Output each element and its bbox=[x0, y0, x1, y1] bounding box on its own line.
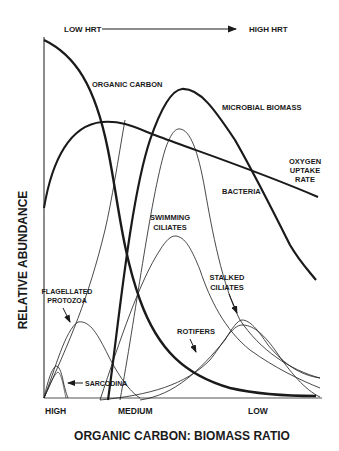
oxygen-label-1: OXYGEN bbox=[289, 157, 321, 166]
y-axis-label: RELATIVE ABUNDANCE bbox=[16, 191, 30, 330]
organic-carbon-label: ORGANIC CARBON bbox=[92, 80, 162, 89]
stalked-ciliates-label-2: CILIATES bbox=[210, 283, 244, 292]
rotifers-label: ROTIFERS bbox=[177, 327, 215, 336]
stalked-ciliates-label-1: STALKED bbox=[210, 273, 245, 282]
flagellated-protozoa-arrow bbox=[63, 308, 70, 322]
oxygen-label-3: RATE bbox=[295, 175, 315, 184]
sarcodina-label: SARCODINA bbox=[85, 380, 127, 387]
swimming-ciliates-label-2: CILIATES bbox=[153, 223, 187, 232]
low-hrt-label: LOW HRT bbox=[64, 25, 101, 34]
microbial-biomass-label: MICROBIAL BIOMASS bbox=[222, 103, 301, 112]
stalked-ciliates-arrow bbox=[229, 294, 237, 313]
succession-diagram: LOW HRT HIGH HRT RELATIVE ABUNDANCE HIGH… bbox=[0, 0, 339, 451]
high-hrt-label: HIGH HRT bbox=[249, 25, 288, 34]
microbial-biomass-curve bbox=[108, 89, 316, 400]
flagellated-protozoa-label-1: FLAGELLATED bbox=[42, 288, 93, 295]
oxygen-label-2: UPTAKE bbox=[290, 166, 320, 175]
bacteria-label: BACTERIA bbox=[222, 187, 261, 196]
oxygen-uptake-curve bbox=[44, 122, 318, 208]
swimming-ciliates-label-1: SWIMMING bbox=[150, 213, 190, 222]
flagellated-protozoa-label-2: PROTOZOA bbox=[47, 297, 87, 304]
swimming-ciliates-curve bbox=[100, 236, 320, 400]
x-tick-medium: MEDIUM bbox=[118, 406, 152, 416]
rotifers-curve bbox=[100, 325, 320, 400]
x-tick-high: HIGH bbox=[45, 406, 66, 416]
x-tick-low: LOW bbox=[248, 406, 269, 416]
x-axis-label: ORGANIC CARBON: BIOMASS RATIO bbox=[74, 429, 290, 443]
rotifers-arrow bbox=[190, 339, 196, 352]
